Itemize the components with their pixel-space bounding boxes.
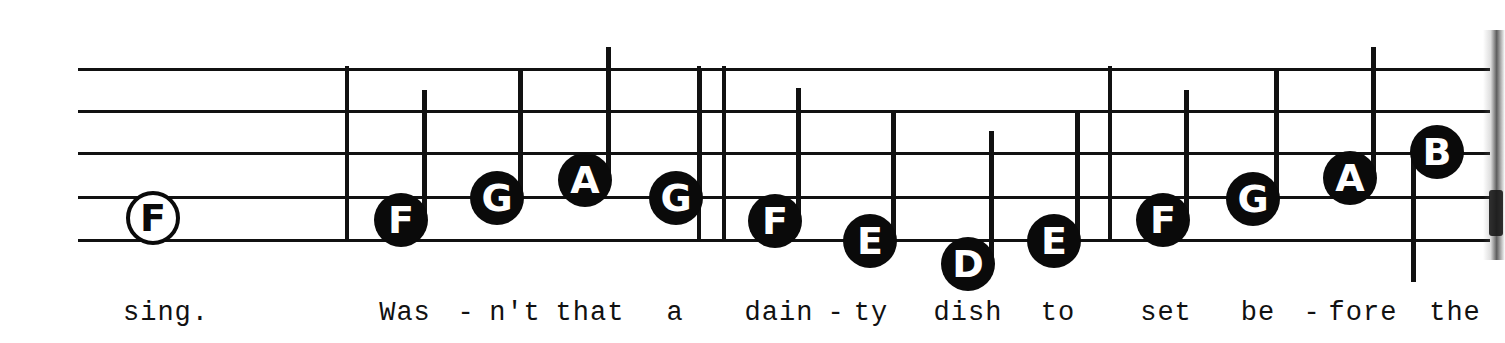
lyric-syllable: to: [1041, 298, 1075, 328]
lyric-syllable: the: [1429, 298, 1481, 328]
lyric-syllable: sing.: [123, 298, 209, 328]
lyric-syllable: that: [556, 298, 625, 328]
page-edge-blot: [1489, 190, 1503, 236]
notation-page: FFGAGFEDEFGAB sing.Was-n'tthatadain-tydi…: [0, 0, 1505, 343]
lyric-hyphen: -: [827, 298, 844, 328]
lyric-syllable: dish: [934, 298, 1003, 328]
lyric-syllable: set: [1140, 298, 1192, 328]
lyric-syllable: fore: [1329, 298, 1398, 328]
lyric-syllable: ty: [854, 298, 888, 328]
lyric-hyphen: -: [457, 298, 474, 328]
lyric-syllable: be: [1241, 298, 1275, 328]
lyric-syllable: Was: [379, 298, 431, 328]
lyrics-line: sing.Was-n'tthatadain-tydishtosetbe-fore…: [0, 0, 1505, 343]
lyric-hyphen: -: [1303, 298, 1320, 328]
lyric-syllable: dain: [745, 298, 814, 328]
lyric-syllable: a: [666, 298, 683, 328]
lyric-syllable: n't: [489, 298, 541, 328]
